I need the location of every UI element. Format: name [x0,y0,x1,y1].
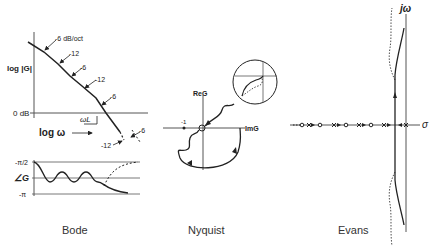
bode-frequency-axis: log ω [39,127,92,138]
nyquist-plot: ReG ImG -1 [163,60,277,170]
bode-caption: Bode [62,224,88,236]
minus-one-point [183,127,186,130]
slope-label-5: -6 [110,93,116,100]
slope-label-4: -12 [95,76,105,83]
crossover-label: ωL [80,115,91,124]
phase-curve [34,162,128,193]
slope-label-7: -12 [101,142,111,149]
evans-caption: Evans [338,224,369,236]
phase-top-tick: -π/2 [15,159,28,166]
slope-label-2: -12 [69,50,79,57]
bode-phase-plot: -π/2 -π ∠G [14,159,140,198]
slope-label-6: -6 [139,127,145,134]
nyquist-real-label: ReG [193,90,208,97]
phase-dashed-curve [104,162,138,186]
nyquist-locus [178,128,240,168]
slope-label-3: -6 [80,64,86,71]
phase-ylabel: ∠G [14,173,29,183]
magnitude-y-label: log |G| [7,64,32,73]
minus-one-label: -1 [181,119,187,125]
bode-magnitude-plot: log |G| 0 dB -6 dB/oct -12 -6 -12 -6 -6 … [7,32,148,149]
zero-db-label: 0 dB [13,109,29,118]
magnitude-dashed-tail [120,132,124,140]
phase-bottom-tick: -π [19,191,26,198]
slope-label-1: -6 dB/oct [55,35,83,42]
nyquist-caption: Nyquist [188,224,225,236]
control-diagrams: log |G| 0 dB -6 dB/oct -12 -6 -12 -6 -6 … [0,0,433,247]
evans-imag-label: jω [398,3,412,14]
nyquist-imag-label: ImG [245,125,259,132]
frequency-label: log ω [39,127,66,138]
evans-root-locus: jω σ [290,3,429,246]
evans-real-label: σ [422,119,429,130]
nyquist-magnifier [233,60,277,104]
